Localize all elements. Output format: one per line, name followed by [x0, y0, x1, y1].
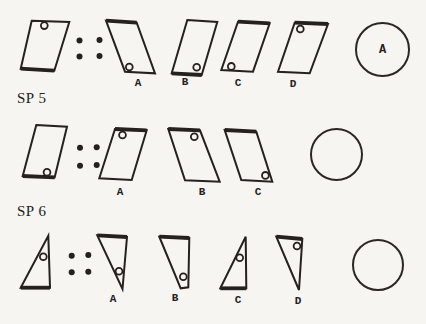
sp5-answer-value: A	[379, 43, 386, 57]
sp5-option-a-shape	[100, 14, 162, 76]
triangle-option-d-shape	[270, 231, 310, 297]
triangle-outline	[276, 237, 302, 290]
sp6-option-c-label: C	[247, 186, 269, 198]
sp5-stimulus-parallelogram	[14, 14, 76, 76]
marker-dot-icon	[297, 26, 304, 33]
triangle-outline	[220, 237, 246, 289]
parallelogram-outline	[99, 129, 146, 180]
marker-dot-icon	[236, 254, 243, 261]
triangle-option-c-shape	[214, 231, 254, 295]
sp6-problem-label: SP 6	[17, 203, 46, 219]
sp5-option-a-label: A	[127, 77, 149, 89]
triangle-outline	[21, 236, 50, 288]
sp6-option-b-shape	[162, 123, 226, 187]
marker-dot-icon	[228, 63, 235, 70]
marker-dot-icon	[180, 273, 187, 280]
bold-base-edge	[225, 130, 257, 132]
triangle-stimulus	[14, 230, 58, 292]
sp5-option-d-shape	[272, 14, 334, 78]
sp6-answer-circle[interactable]	[310, 128, 363, 181]
test-page: A B C D A SP 5	[0, 0, 426, 324]
marker-dot-icon	[126, 64, 133, 71]
bold-base-edge	[159, 237, 189, 238]
marker-dot-icon	[262, 172, 269, 179]
triangle-option-b-shape	[153, 231, 197, 295]
marker-dot-icon	[294, 243, 301, 250]
sp6-option-a-label: A	[109, 186, 131, 198]
bold-base-edge	[168, 129, 200, 130]
marker-dot-icon	[44, 169, 51, 176]
marker-dot-icon	[193, 64, 200, 71]
parallelogram-outline	[172, 20, 218, 75]
triangle-option-a-shape	[92, 231, 134, 293]
marker-dot-icon	[191, 133, 198, 140]
bold-base-edge	[23, 176, 55, 177]
sp5-option-c-label: C	[227, 77, 249, 89]
triangle-outline	[97, 235, 127, 289]
marker-dot-icon	[41, 22, 48, 29]
sp5-option-c-shape	[216, 14, 276, 76]
parallelogram-outline	[168, 129, 219, 182]
marker-dot-icon	[40, 253, 47, 260]
sp6-option-a-shape	[94, 123, 152, 185]
triangle-option-a-label: A	[102, 293, 124, 305]
bold-base-edge	[276, 237, 302, 239]
sp6-option-b-label: B	[191, 186, 213, 198]
parallelogram-outline	[106, 21, 155, 74]
marker-dot-icon	[119, 132, 126, 139]
sp5-option-b-label: B	[174, 76, 196, 88]
triangle-option-b-label: B	[164, 292, 186, 304]
bold-base-edge	[21, 69, 55, 71]
bold-base-edge	[106, 21, 137, 23]
marker-dot-icon	[116, 268, 123, 275]
sp5-answer-circle[interactable]: A	[355, 22, 410, 77]
triangle-option-d-label: D	[287, 295, 309, 307]
bold-base-edge	[238, 22, 270, 24]
bold-base-edge	[172, 73, 202, 75]
triangle-answer-circle[interactable]	[352, 239, 404, 291]
bold-base-edge	[115, 129, 147, 130]
bold-base-edge	[295, 23, 328, 24]
sp6-stimulus-parallelogram	[16, 120, 74, 184]
triangle-option-c-label: C	[227, 294, 249, 306]
sp5-problem-label: SP 5	[17, 90, 46, 106]
sp5-option-d-label: D	[282, 78, 304, 90]
sp6-option-c-shape	[218, 124, 280, 186]
bold-base-edge	[97, 235, 127, 237]
parallelogram-outline	[225, 130, 273, 182]
